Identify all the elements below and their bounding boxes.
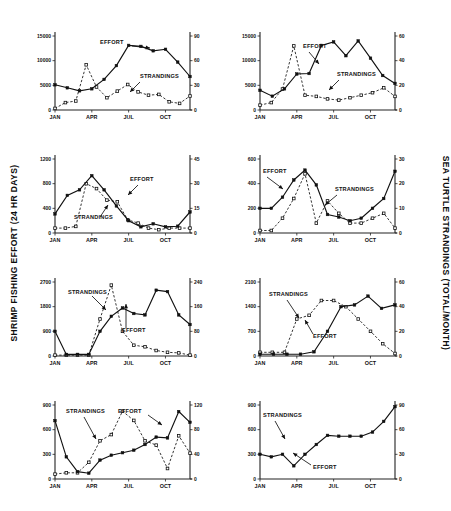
effort-label: EFFORT xyxy=(100,39,124,45)
effort-marker xyxy=(259,89,262,92)
effort-marker xyxy=(144,443,147,446)
y-tick-label-left: 400 xyxy=(43,205,52,211)
x-tick-label: JAN xyxy=(255,360,266,366)
effort-marker xyxy=(164,48,167,51)
strandings-marker xyxy=(75,225,78,228)
effort-marker xyxy=(281,453,284,456)
effort-marker xyxy=(189,75,192,78)
effort-marker xyxy=(76,353,79,356)
y-tick-label-right: 160 xyxy=(194,303,203,309)
effort-line xyxy=(55,290,190,354)
effort-marker xyxy=(121,307,124,310)
effort-marker xyxy=(110,315,113,318)
effort-marker xyxy=(166,290,169,293)
x-tick-label: OCT xyxy=(365,483,377,489)
effort-marker xyxy=(259,207,262,210)
strandings-marker xyxy=(332,299,335,302)
effort-marker xyxy=(259,353,262,356)
strandings-marker xyxy=(65,472,68,475)
effort-marker xyxy=(177,314,180,317)
effort-marker xyxy=(76,470,79,473)
effort-marker xyxy=(382,197,385,200)
effort-marker xyxy=(349,219,352,222)
effort-marker xyxy=(54,213,57,216)
x-tick-label: APR xyxy=(86,114,97,120)
strandings-marker xyxy=(54,227,57,230)
effort-marker xyxy=(345,54,348,57)
effort-marker xyxy=(88,472,91,475)
strandings-marker xyxy=(166,351,169,354)
effort-marker xyxy=(91,174,94,177)
x-tick-label: OCT xyxy=(365,360,377,366)
effort-marker xyxy=(332,41,335,44)
y-tick-label-left: 900 xyxy=(43,328,52,334)
chart-panel: 02004006000102030JANAPRJULOCTEFFORTSTRAN… xyxy=(227,137,426,260)
effort-marker xyxy=(296,73,299,76)
y-tick-label-left: 600 xyxy=(43,426,52,432)
strandings-marker xyxy=(371,91,374,94)
strandings-marker xyxy=(147,94,150,97)
strandings-marker xyxy=(270,101,273,104)
x-tick-label: OCT xyxy=(160,237,172,243)
strandings-marker xyxy=(315,95,318,98)
strandings-marker xyxy=(110,284,113,287)
effort-marker xyxy=(166,437,169,440)
y-tick-label-right: 20 xyxy=(399,82,405,88)
strandings-label: STRANDINGS xyxy=(269,291,308,297)
effort-marker xyxy=(65,456,68,459)
y-tick-label-left: 0 xyxy=(48,107,51,113)
effort-marker xyxy=(110,454,113,457)
x-tick-label: JAN xyxy=(255,114,266,120)
effort-marker xyxy=(189,421,192,424)
y-tick-label-right: 0 xyxy=(399,230,402,236)
strandings-marker xyxy=(88,461,91,464)
strandings-marker xyxy=(270,229,273,232)
strandings-marker xyxy=(382,212,385,215)
effort-marker xyxy=(78,90,81,93)
x-tick-label: JUL xyxy=(124,114,135,120)
effort-marker xyxy=(304,453,307,456)
effort-label: EFFORT xyxy=(303,43,327,49)
strandings-marker xyxy=(177,352,180,355)
effort-marker xyxy=(176,61,179,64)
effort-marker xyxy=(144,314,147,317)
effort-marker xyxy=(394,304,397,307)
strandings-marker xyxy=(177,435,180,438)
y-tick-label-left: 10000 xyxy=(37,57,51,63)
strandings-marker xyxy=(189,452,192,455)
y-tick-label-right: 10 xyxy=(399,205,405,211)
effort-marker xyxy=(340,305,343,308)
strandings-marker xyxy=(369,330,372,333)
strandings-marker xyxy=(338,212,341,215)
strandings-marker xyxy=(189,354,192,357)
strandings-marker xyxy=(99,440,102,443)
x-tick-label: JUL xyxy=(124,360,135,366)
strandings-marker xyxy=(64,101,67,104)
effort-marker xyxy=(164,226,167,229)
effort-marker xyxy=(91,88,94,91)
effort-marker xyxy=(88,353,91,356)
strandings-marker xyxy=(394,352,397,355)
chart-panel: 030060090004080120JANAPRJULOCTEFFORTSTRA… xyxy=(22,383,221,506)
strandings-marker xyxy=(75,100,78,103)
y-tick-label-left: 2100 xyxy=(245,279,256,285)
strandings-line xyxy=(55,411,190,474)
strandings-arrow-head xyxy=(104,205,108,210)
effort-marker xyxy=(133,449,136,452)
strandings-marker xyxy=(293,45,296,48)
effort-marker xyxy=(338,435,341,438)
y-tick-label-left: 5000 xyxy=(245,82,256,88)
effort-marker xyxy=(103,189,106,192)
y-tick-label-left: 300 xyxy=(248,451,257,457)
effort-arrow-head xyxy=(278,185,283,189)
strandings-label: STRANDINGS xyxy=(74,214,113,220)
effort-marker xyxy=(394,170,397,173)
effort-line xyxy=(55,45,190,90)
y-tick-label-right: 40 xyxy=(399,57,405,63)
y-tick-label-right: 40 xyxy=(399,303,405,309)
strandings-marker xyxy=(259,104,262,107)
effort-line xyxy=(260,41,395,96)
y-tick-label-right: 120 xyxy=(194,402,203,408)
y-axis-title-right: SEA TURTLE STRANDINGS (TOTAL/MONTH) xyxy=(441,143,451,363)
